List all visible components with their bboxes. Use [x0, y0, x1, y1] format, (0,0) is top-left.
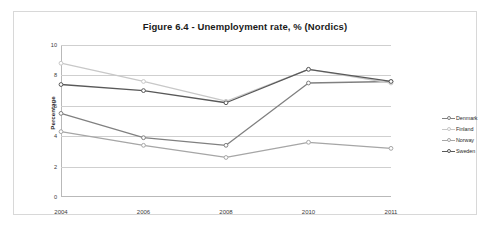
- data-point: [389, 80, 393, 84]
- legend-item-finland[interactable]: Finland: [442, 124, 490, 134]
- y-axis-tick-label: 4: [54, 133, 57, 139]
- data-point: [224, 156, 228, 160]
- legend-item-norway[interactable]: Norway: [442, 135, 490, 145]
- legend-label: Finland: [456, 126, 473, 132]
- legend-label: Sweden: [456, 148, 475, 154]
- legend-label: Denmark: [456, 115, 478, 121]
- y-axis-label: Percentage: [49, 96, 56, 129]
- y-axis-tick-label: 8: [54, 72, 57, 78]
- legend-item-sweden[interactable]: Sweden: [442, 146, 490, 156]
- data-point: [59, 61, 63, 65]
- x-axis-tick-label: 2011: [385, 209, 398, 215]
- data-point: [59, 83, 63, 87]
- plot-wrapper: 0246810 20042006200820102011: [61, 45, 391, 197]
- data-point: [389, 146, 393, 150]
- data-point: [59, 112, 63, 116]
- x-axis-tick-label: 2006: [137, 209, 150, 215]
- data-point: [307, 140, 311, 144]
- data-point: [142, 89, 146, 93]
- legend-label: Norway: [456, 137, 474, 143]
- y-axis-tick-label: 2: [54, 164, 57, 170]
- data-point: [59, 130, 63, 134]
- data-point: [224, 143, 228, 147]
- data-point: [307, 67, 311, 71]
- x-axis-tick-label: 2008: [219, 209, 232, 215]
- series-denmark: [59, 80, 393, 148]
- x-axis-tick-label: 2010: [302, 209, 315, 215]
- figure-container: Figure 6.4 - Unemployment rate, % (Nordi…: [13, 11, 477, 215]
- series-line: [61, 81, 391, 145]
- x-axis-tick-label: 2004: [54, 209, 67, 215]
- legend-marker-icon: [442, 126, 455, 133]
- y-axis-tick-label: 6: [54, 103, 57, 109]
- chart-legend: DenmarkFinlandNorwaySweden: [442, 113, 490, 157]
- data-point: [307, 81, 311, 85]
- y-axis-tick-label: 10: [51, 42, 57, 48]
- y-axis-tick-label: 0: [54, 194, 57, 200]
- legend-marker-icon: [442, 148, 455, 155]
- data-point: [224, 101, 228, 105]
- legend-marker-icon: [442, 137, 455, 144]
- data-point: [142, 136, 146, 140]
- series-lines: [61, 45, 391, 197]
- chart-title: Figure 6.4 - Unemployment rate, % (Nordi…: [14, 21, 476, 32]
- data-point: [142, 80, 146, 84]
- legend-marker-icon: [442, 115, 455, 122]
- legend-item-denmark[interactable]: Denmark: [442, 113, 490, 123]
- data-point: [142, 143, 146, 147]
